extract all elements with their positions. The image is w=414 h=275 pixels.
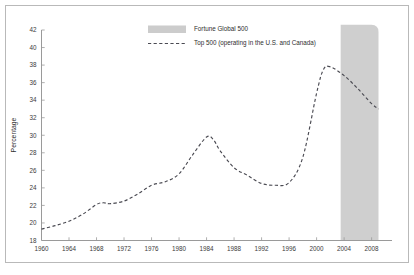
x-tick-label: 1972 <box>117 245 132 252</box>
chart-figure: 18202224262830323436384042 1960196419681… <box>0 0 414 275</box>
y-axis-title: Percentage <box>10 117 18 152</box>
legend-swatch-fortune-global-500 <box>148 26 186 34</box>
y-tick-label: 24 <box>29 184 37 191</box>
x-tick-label: 1960 <box>34 245 49 252</box>
x-tick-label: 1980 <box>172 245 187 252</box>
x-tick-label: 2000 <box>310 245 325 252</box>
x-tick-label: 1992 <box>255 245 270 252</box>
y-tick-label: 22 <box>29 202 37 209</box>
y-tick-labels: 18202224262830323436384042 <box>29 26 37 244</box>
y-tick-label: 36 <box>29 79 37 86</box>
x-tick-label: 1996 <box>282 245 297 252</box>
x-tick-label: 1976 <box>145 245 160 252</box>
chart-legend: Fortune Global 500 Top 500 (operating in… <box>148 25 316 47</box>
y-tick-label: 20 <box>29 219 37 226</box>
y-tick-label: 32 <box>29 114 37 121</box>
y-tick-label: 30 <box>29 132 37 139</box>
x-tick-label: 1964 <box>62 245 77 252</box>
y-tick-label: 42 <box>29 26 37 33</box>
fortune-global-500-band <box>341 25 379 241</box>
x-tick-label: 2004 <box>337 245 352 252</box>
y-tick-label: 34 <box>29 96 37 103</box>
legend-label-fortune-global-500: Fortune Global 500 <box>194 25 248 32</box>
y-tick-label: 40 <box>29 44 37 51</box>
series-top-500-line <box>42 66 379 229</box>
line-chart: 18202224262830323436384042 1960196419681… <box>0 0 414 275</box>
legend-label-top-500: Top 500 (operating in the U.S. and Canad… <box>194 39 316 47</box>
x-tick-label: 1984 <box>200 245 215 252</box>
x-tick-labels: 1960196419681972197619801984198819921996… <box>34 245 379 252</box>
y-tick-label: 26 <box>29 167 37 174</box>
y-tick-label: 38 <box>29 61 37 68</box>
y-tick-label: 18 <box>29 237 37 244</box>
y-tick-label: 28 <box>29 149 37 156</box>
x-tick-label: 1988 <box>227 245 242 252</box>
x-tick-label: 2008 <box>365 245 380 252</box>
x-tick-label: 1968 <box>90 245 105 252</box>
